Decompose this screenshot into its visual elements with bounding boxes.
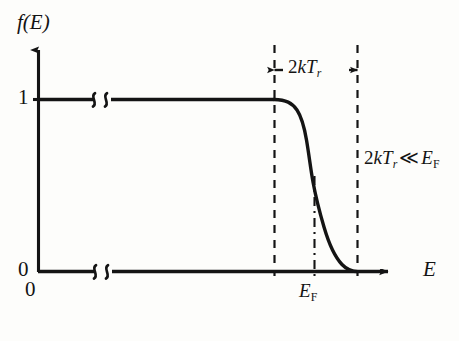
fermi-dirac-curve — [274, 100, 358, 272]
thermal-width-annotation: 2kTr — [288, 57, 321, 80]
inequality-coefficient: 2 — [364, 147, 374, 168]
fermi-energy-tick-label: EF — [299, 281, 317, 304]
figure-canvas: f(E) E 1 0 0 EF 2kTr 2kTr≪EF — [0, 0, 459, 341]
origin-label: 0 — [25, 279, 36, 300]
y-tick-label-one: 1 — [18, 87, 29, 108]
much-less-than-icon: ≪ — [397, 147, 421, 168]
scale-inequality-annotation: 2kTr≪EF — [364, 148, 440, 171]
x-axis-label: E — [423, 259, 436, 280]
temperature-subscript: r — [317, 67, 322, 80]
temperature-symbol: T — [306, 56, 317, 77]
boltzmann-constant-symbol: k — [298, 56, 306, 77]
plateau-break-icon — [93, 93, 107, 106]
inequality-boltzmann-symbol: k — [374, 147, 382, 168]
inequality-temperature-symbol: T — [382, 147, 393, 168]
y-axis-label: f(E) — [17, 12, 50, 33]
fermi-energy-symbol: E — [299, 280, 311, 301]
x-axis-break-icon — [94, 265, 108, 278]
inequality-fermi-symbol: E — [421, 147, 433, 168]
fermi-energy-subscript: F — [311, 291, 318, 304]
thermal-width-coefficient: 2 — [288, 56, 298, 77]
inequality-fermi-subscript: F — [433, 158, 440, 171]
